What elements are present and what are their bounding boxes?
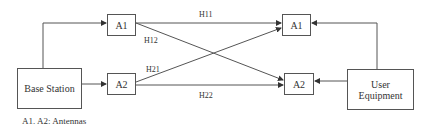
edge-bs-to-a1 <box>43 23 106 68</box>
ue-antenna-a1-label: A1 <box>290 20 302 31</box>
diagram-connectors <box>0 0 429 132</box>
ue-antenna-a2-box: A2 <box>284 73 314 95</box>
channel-label-h12: H12 <box>144 36 158 45</box>
bs-antenna-a2-label: A2 <box>115 79 127 90</box>
edge-ue-to-a1 <box>312 23 377 69</box>
user-equipment-label-line2: Equipment <box>359 90 403 101</box>
user-equipment-label-line1: User <box>371 79 390 90</box>
ue-antenna-a2-label: A2 <box>293 79 305 90</box>
ue-antenna-a1-box: A1 <box>282 14 311 36</box>
channel-label-h21: H21 <box>146 65 160 74</box>
bs-antenna-a2-box: A2 <box>107 73 136 95</box>
channel-label-h11: H11 <box>199 10 212 19</box>
legend-caption: A1. A2: Antennas <box>22 116 86 126</box>
bs-antenna-a1-box: A1 <box>107 14 136 36</box>
base-station-box: Base Station <box>17 68 82 109</box>
bs-antenna-a1-label: A1 <box>115 20 127 31</box>
user-equipment-box: User Equipment <box>347 69 414 110</box>
base-station-label: Base Station <box>24 83 74 94</box>
channel-label-h22: H22 <box>199 91 213 100</box>
